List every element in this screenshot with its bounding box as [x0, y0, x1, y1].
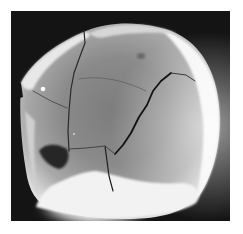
bright-speck: [41, 87, 46, 92]
surface-pit: [137, 53, 145, 59]
skull-photograph: [11, 11, 230, 221]
small-speck: [73, 133, 75, 135]
skull-illustration: [11, 11, 230, 221]
image-canvas: [0, 0, 243, 234]
